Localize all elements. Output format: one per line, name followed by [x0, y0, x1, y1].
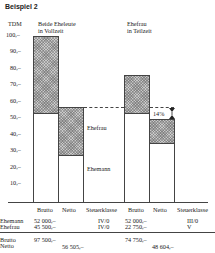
x-label: Brutto: [128, 206, 144, 213]
row-label: Ehefrau: [0, 223, 20, 230]
row-label: Netto: [0, 242, 14, 249]
cell-stk: IV/0: [98, 223, 109, 230]
label-ehefrau: Ehefrau: [87, 124, 107, 131]
total-brutto: 97 500,–: [34, 236, 56, 243]
cell-stk: V: [187, 223, 191, 230]
x-label: Steuerklasse: [177, 206, 208, 213]
total-netto: 56 505,–: [62, 243, 84, 250]
x-axis-baseline: [8, 202, 208, 203]
x-label: Netto: [62, 206, 76, 213]
x-label: Netto: [153, 206, 167, 213]
cell-brutto: 22 750,–: [125, 223, 147, 230]
label-ehemann: Ehemann: [87, 165, 110, 172]
percent-label: 14%: [153, 110, 164, 117]
cell-brutto: 45 500,–: [34, 223, 56, 230]
table-divider: [0, 232, 215, 233]
difference-arrow-icon: [0, 0, 215, 253]
x-label: Brutto: [37, 206, 53, 213]
total-brutto: 74 750,–: [125, 236, 147, 243]
x-label: Steuerklasse: [86, 206, 117, 213]
total-netto: 48 604,–: [152, 243, 174, 250]
